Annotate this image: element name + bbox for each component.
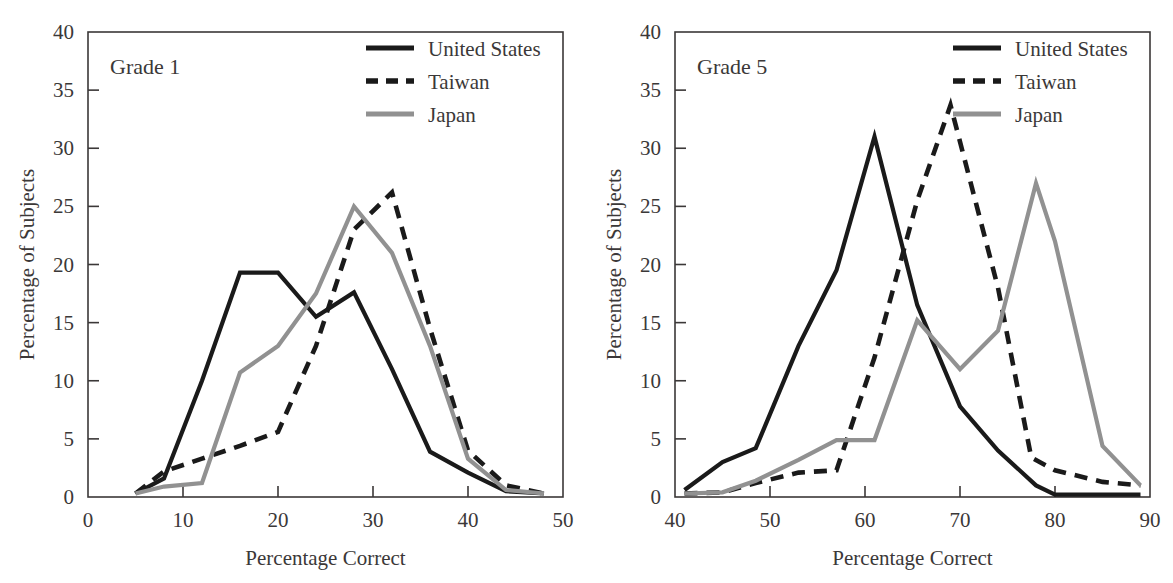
x-axis-title: Percentage Correct: [245, 546, 405, 570]
x-axis-tick-label: 40: [458, 508, 479, 532]
x-axis-title: Percentage Correct: [832, 546, 992, 570]
y-axis-tick-label: 35: [640, 78, 661, 102]
y-axis-tick-label: 40: [640, 20, 661, 44]
y-axis-tick-label: 5: [651, 427, 662, 451]
legend-label-japan: Japan: [1015, 103, 1063, 127]
x-axis-tick-label: 80: [1045, 508, 1066, 532]
x-axis-tick-label: 70: [950, 508, 971, 532]
y-axis-tick-label: 15: [53, 311, 74, 335]
x-axis-tick-label: 50: [553, 508, 574, 532]
y-axis-tick-label: 25: [53, 194, 74, 218]
y-axis-tick-label: 10: [640, 369, 661, 393]
x-axis-tick-label: 90: [1140, 508, 1161, 532]
x-axis-tick-label: 30: [363, 508, 384, 532]
x-axis-tick-label: 10: [173, 508, 194, 532]
panel-label: Grade 1: [110, 54, 180, 79]
legend-label-united-states: United States: [1015, 37, 1128, 61]
figure-two-panel-line-charts: 051015202530354001020304050Percentage Co…: [0, 0, 1173, 583]
y-axis-tick-label: 30: [53, 136, 74, 160]
y-axis-tick-label: 35: [53, 78, 74, 102]
y-axis-tick-label: 20: [640, 253, 661, 277]
series-line-taiwan: [685, 105, 1141, 493]
y-axis-tick-label: 5: [64, 427, 75, 451]
y-axis-tick-label: 0: [64, 485, 75, 509]
series-line-japan: [136, 206, 545, 493]
legend-label-japan: Japan: [428, 103, 476, 127]
y-axis-tick-label: 10: [53, 369, 74, 393]
y-axis-title: Percentage of Subjects: [15, 169, 39, 360]
y-axis-tick-label: 40: [53, 20, 74, 44]
x-axis-tick-label: 40: [665, 508, 686, 532]
plot-frame: [675, 32, 1150, 497]
legend-label-united-states: United States: [428, 37, 541, 61]
plot-frame: [88, 32, 563, 497]
x-axis-tick-label: 20: [268, 508, 289, 532]
panel-grade-1: 051015202530354001020304050Percentage Co…: [0, 0, 586, 583]
chart-grade-1: 051015202530354001020304050Percentage Co…: [0, 0, 586, 583]
panel-label: Grade 5: [697, 54, 767, 79]
y-axis-tick-label: 0: [651, 485, 662, 509]
panel-grade-5: 0510152025303540405060708090Percentage C…: [587, 0, 1173, 583]
y-axis-title: Percentage of Subjects: [602, 169, 626, 360]
y-axis-tick-label: 15: [640, 311, 661, 335]
series-line-japan: [685, 183, 1141, 493]
chart-grade-5: 0510152025303540405060708090Percentage C…: [587, 0, 1173, 583]
legend-label-taiwan: Taiwan: [1015, 70, 1077, 94]
legend-label-taiwan: Taiwan: [428, 70, 490, 94]
x-axis-tick-label: 50: [760, 508, 781, 532]
y-axis-tick-label: 25: [640, 194, 661, 218]
y-axis-tick-label: 20: [53, 253, 74, 277]
y-axis-tick-label: 30: [640, 136, 661, 160]
x-axis-tick-label: 0: [83, 508, 94, 532]
x-axis-tick-label: 60: [855, 508, 876, 532]
